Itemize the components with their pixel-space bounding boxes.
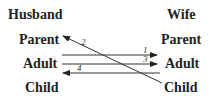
- label-2: 2: [81, 37, 86, 47]
- label-3: 3: [142, 54, 148, 64]
- transaction-arrows: 2 1 3 4: [0, 0, 211, 102]
- label-4: 4: [77, 63, 82, 73]
